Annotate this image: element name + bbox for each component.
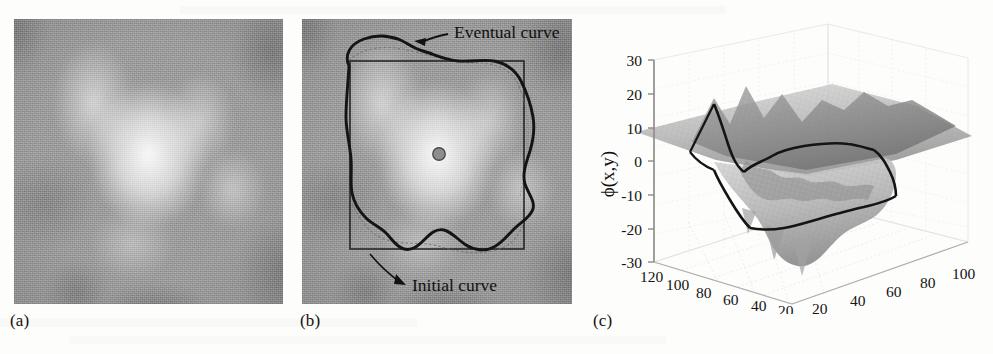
initial-curve-arrow-head xyxy=(394,274,406,285)
z-tick-4: -10 xyxy=(621,187,642,204)
x-tick-4: 100 xyxy=(952,265,976,282)
z-tick-5: -20 xyxy=(621,221,642,238)
y-tick-5: 20 xyxy=(778,302,794,314)
x-tick-0: 20 xyxy=(812,300,828,314)
y-tick-0: 120 xyxy=(640,268,664,285)
z-tick-3: 0 xyxy=(634,153,642,170)
panel-c-surface-plot: 30 20 10 0 -10 -20 -30 ϕ(x,y) 120 100 80… xyxy=(596,14,988,314)
y-tick-1: 100 xyxy=(666,276,690,293)
eventual-curve-contour xyxy=(346,36,534,250)
z-tick-0: 30 xyxy=(627,52,643,69)
z-tick-1: 20 xyxy=(627,86,643,103)
panel-b-curve-overlay: Eventual curve Initial curve xyxy=(302,19,572,304)
grayscale-image-a xyxy=(14,19,283,304)
x-tick-1: 40 xyxy=(850,292,866,309)
panel-b-caption: (b) xyxy=(300,311,320,331)
y-tick-3: 60 xyxy=(723,291,739,308)
z-tick-2: 10 xyxy=(627,120,643,137)
z-axis xyxy=(648,60,654,262)
x-tick-2: 60 xyxy=(886,283,902,300)
z-axis-label: ϕ(x,y) xyxy=(597,151,619,197)
y-tick-2: 80 xyxy=(696,284,712,301)
center-marker-dot xyxy=(433,148,445,160)
panel-c-caption: (c) xyxy=(593,311,612,331)
panel-a-image xyxy=(14,19,283,304)
phi-surface xyxy=(636,84,972,276)
eventual-curve-arrow-head xyxy=(414,38,426,46)
panel-a-caption: (a) xyxy=(10,311,29,331)
x-tick-3: 80 xyxy=(920,274,936,291)
eventual-curve-label: Eventual curve xyxy=(454,22,560,42)
panel-b-image-with-curves: Eventual curve Initial curve xyxy=(302,19,572,304)
surface-plot-svg: 30 20 10 0 -10 -20 -30 ϕ(x,y) 120 100 80… xyxy=(596,14,988,314)
y-tick-4: 40 xyxy=(751,297,767,314)
figure-container: (a) Eventual curve xyxy=(0,0,993,354)
initial-curve-label: Initial curve xyxy=(412,275,497,295)
image-a-vignette xyxy=(14,19,283,304)
